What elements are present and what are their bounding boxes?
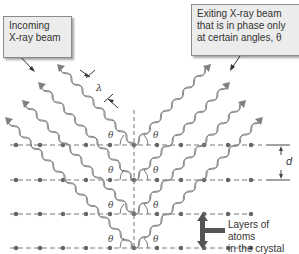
theta-label: θ — [108, 200, 113, 210]
layers-line2: in the crystal — [228, 243, 299, 254]
crystal-lattice — [10, 143, 262, 250]
exiting-beam-callout: Exiting X-ray beam that is in phase only… — [191, 4, 299, 56]
theta-label: θ — [153, 130, 158, 140]
theta-label: θ — [153, 165, 158, 175]
exiting-line2: that is in phase only — [197, 20, 296, 32]
layers-label: Layers of atoms in the crystal — [228, 219, 299, 254]
layers-line1: Layers of atoms — [228, 219, 299, 243]
incoming-line2: X-ray beam — [9, 32, 66, 44]
theta-label: θ — [153, 234, 158, 244]
wavelength-label: λ — [96, 82, 102, 93]
theta-label: θ — [108, 130, 113, 140]
exiting-line1: Exiting X-ray beam — [197, 8, 296, 20]
spacing-label: d — [286, 155, 292, 167]
xray-beams — [5, 64, 263, 249]
theta-label: θ — [108, 165, 113, 175]
layers-arrow — [197, 213, 225, 249]
theta-label: θ — [108, 234, 113, 244]
theta-label: θ — [153, 200, 158, 210]
incoming-beam-callout: Incoming X-ray beam — [3, 16, 72, 58]
incoming-line1: Incoming — [9, 20, 66, 32]
exiting-line3: at certain angles, θ — [197, 32, 296, 44]
